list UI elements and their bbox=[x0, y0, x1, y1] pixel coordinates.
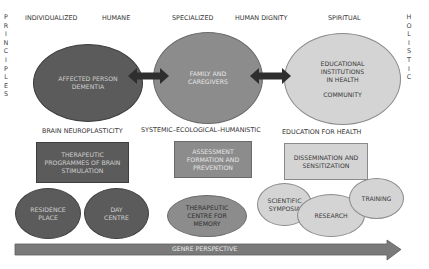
genre-perspective-label: GENRE PERSPECTIVE bbox=[172, 245, 237, 252]
genre-perspective-arrow-icon bbox=[0, 0, 429, 269]
